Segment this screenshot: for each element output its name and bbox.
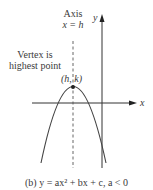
y-axis-label: y — [93, 12, 97, 23]
vertex-point-label: (h, k) — [61, 73, 82, 84]
caption: (b) y = ax² + bx + c, a < 0 — [0, 177, 153, 188]
y-axis-arrow-icon — [100, 14, 105, 22]
x-axis-label: x — [140, 97, 144, 108]
x-axis-arrow-icon — [129, 101, 137, 106]
axis-label: Axis x = h — [58, 8, 88, 30]
axis-label-line1: Axis — [58, 8, 88, 19]
vertex-description-line1: Vertex is — [6, 49, 64, 60]
vertex-point — [71, 85, 75, 89]
vertex-description-line2: highest point — [6, 60, 64, 71]
vertex-description: Vertex is highest point — [6, 49, 64, 71]
parabola-curve — [41, 87, 106, 164]
axis-equation: x = h — [58, 19, 88, 30]
